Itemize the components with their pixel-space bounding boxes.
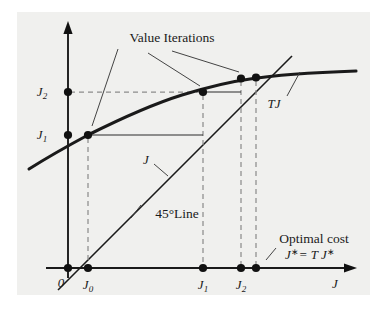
leader-45-line xyxy=(131,205,141,218)
leader-value-iterations-1 xyxy=(92,49,118,126)
x-tick-j2-sub: 2 xyxy=(242,284,247,294)
leader-value-iterations-3 xyxy=(172,51,239,72)
point-x-axis-j2 xyxy=(237,264,245,272)
value-iteration-staircase xyxy=(88,92,241,135)
point-j1-on-curve xyxy=(199,88,207,96)
y-tick-j1-sub: 1 xyxy=(43,134,48,144)
x-tick-label-j0: J0 xyxy=(83,277,94,294)
point-j0-on-curve xyxy=(84,131,92,139)
y-tick-j2-sub: 2 xyxy=(43,91,48,101)
leader-value-iterations-2 xyxy=(148,53,200,86)
x-axis-label: J xyxy=(332,276,339,291)
identity-line-label: J xyxy=(143,152,150,167)
x-tick-label-j1: J1 xyxy=(198,277,208,294)
forty-five-degree-label: 45°Line xyxy=(155,206,199,221)
point-j2-on-curve xyxy=(237,74,245,82)
figure-root: J2 J1 0 J0 J1 J2 J TJ J 45°Line Value It… xyxy=(0,0,383,310)
point-y-axis-j1 xyxy=(64,131,72,139)
figure-svg: J2 J1 0 J0 J1 J2 J TJ J 45°Line Value It… xyxy=(0,0,383,310)
point-x-axis-j1 xyxy=(199,264,207,272)
leader-optimal-cost xyxy=(266,248,276,260)
point-y-axis-j2 xyxy=(64,88,72,96)
leader-identity-j xyxy=(154,164,168,176)
point-x-axis-j0 xyxy=(84,264,92,272)
y-tick-label-j2: J2 xyxy=(37,84,48,101)
leader-lines-group xyxy=(92,49,300,260)
equation-star-left: ∗ xyxy=(291,247,299,257)
tj-curve-label: TJ xyxy=(268,96,282,111)
value-iterations-label: Value Iterations xyxy=(129,30,214,45)
x-tick-j0-sub: 0 xyxy=(89,284,94,294)
point-x-axis-jstar xyxy=(252,264,260,272)
equation-star-right: ∗ xyxy=(327,247,335,257)
point-fixed-point-jstar xyxy=(252,73,260,81)
y-tick-label-j1: J1 xyxy=(37,127,47,144)
x-tick-j1-sub: 1 xyxy=(204,284,209,294)
x-tick-label-j2: J2 xyxy=(236,277,247,294)
tj-curve xyxy=(29,71,356,169)
x-axis-arrowhead xyxy=(344,263,357,272)
optimal-cost-equation: J∗= T J∗ xyxy=(285,247,335,262)
identity-45-degree-line xyxy=(58,56,292,290)
origin-label: 0 xyxy=(58,275,65,290)
equation-middle: = T J xyxy=(299,247,328,262)
point-origin xyxy=(64,264,72,272)
optimal-cost-label: Optimal cost xyxy=(279,231,349,246)
y-axis-arrowhead xyxy=(63,21,72,34)
